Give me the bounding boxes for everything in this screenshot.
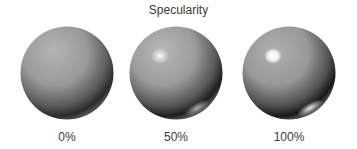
sphere-specularity-50 bbox=[129, 26, 223, 120]
shaded-sphere-icon bbox=[20, 26, 114, 120]
shaded-sphere-icon bbox=[242, 26, 336, 120]
figure-title: Specularity bbox=[0, 3, 357, 17]
sphere-specularity-0 bbox=[20, 26, 114, 120]
sphere-label-50: 50% bbox=[129, 130, 223, 144]
sphere-specularity-100 bbox=[242, 26, 336, 120]
sphere-label-100: 100% bbox=[242, 130, 336, 144]
shaded-sphere-icon bbox=[129, 26, 223, 120]
sphere-label-0: 0% bbox=[20, 130, 114, 144]
